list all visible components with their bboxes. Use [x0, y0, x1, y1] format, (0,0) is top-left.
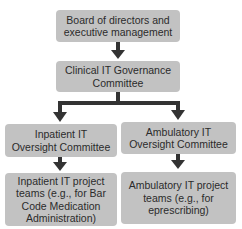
node-label: Inpatient IT project teams (e.g., for Ba…	[10, 175, 112, 225]
node-board: Board of directors and executive managem…	[56, 10, 180, 42]
node-clinical-it-governance: Clinical IT Governance Committee	[56, 61, 180, 92]
node-label: Inpatient IT Oversight Committee	[11, 128, 111, 153]
node-label: Ambulatory IT project teams (e.g., for e…	[127, 179, 230, 217]
node-label: Ambulatory IT Oversight Committee	[127, 126, 230, 151]
node-inpatient-oversight: Inpatient IT Oversight Committee	[5, 124, 117, 157]
node-inpatient-teams: Inpatient IT project teams (e.g., for Ba…	[5, 173, 117, 226]
node-label: Clinical IT Governance Committee	[64, 64, 172, 89]
node-ambulatory-oversight: Ambulatory IT Oversight Committee	[121, 122, 236, 154]
node-ambulatory-teams: Ambulatory IT project teams (e.g., for e…	[121, 172, 236, 224]
node-label: Board of directors and executive managem…	[58, 14, 178, 39]
